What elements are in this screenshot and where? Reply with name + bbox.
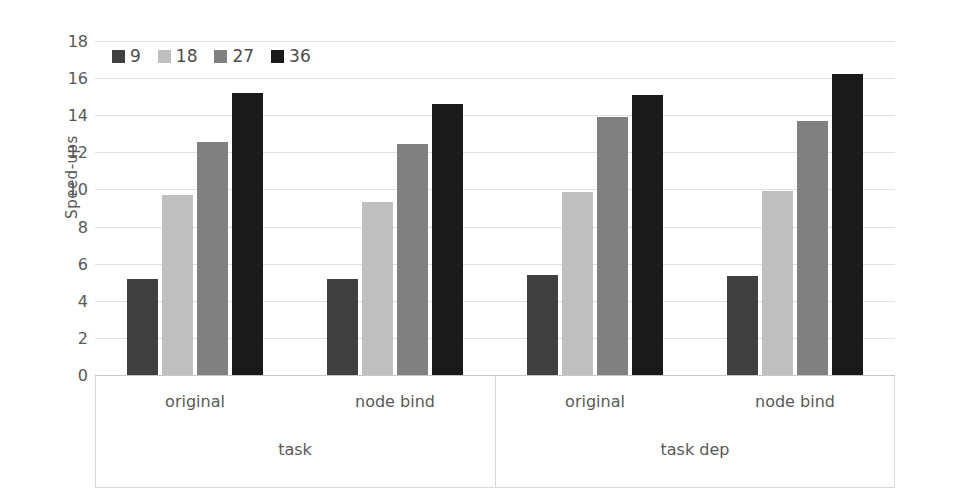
- bar-chart: Speed-ups 181614121086420 9182736 origin…: [0, 0, 953, 495]
- y-tick-label: 8: [40, 217, 88, 236]
- legend-item[interactable]: 27: [214, 48, 254, 65]
- bar: [562, 192, 593, 375]
- y-tick-label: 10: [40, 180, 88, 199]
- y-tick-label: 12: [40, 143, 88, 162]
- category-label-tier2: task dep: [495, 440, 895, 459]
- bar: [797, 121, 828, 375]
- y-tick-label: 4: [40, 291, 88, 310]
- bar: [232, 93, 263, 375]
- bar: [597, 117, 628, 375]
- chart-legend: 9182736: [112, 48, 328, 65]
- bar: [727, 276, 758, 375]
- category-label-tier2: task: [95, 440, 495, 459]
- category-axis: originalnode bindoriginalnode bindtaskta…: [95, 376, 895, 488]
- category-label-tier1: original: [95, 392, 295, 411]
- bar: [397, 144, 428, 375]
- bar: [127, 279, 158, 375]
- legend-swatch-icon: [112, 50, 125, 63]
- category-label-tier1: node bind: [295, 392, 495, 411]
- legend-swatch-icon: [271, 50, 284, 63]
- y-tick-label: 14: [40, 106, 88, 125]
- y-tick-label: 18: [40, 32, 88, 51]
- y-tick-label: 16: [40, 69, 88, 88]
- y-tick-label: 2: [40, 328, 88, 347]
- bar: [197, 142, 228, 375]
- legend-label: 9: [130, 48, 141, 65]
- category-label-tier1: node bind: [695, 392, 895, 411]
- category-label-tier1: original: [495, 392, 695, 411]
- legend-item[interactable]: 18: [158, 48, 198, 65]
- bar: [432, 104, 463, 375]
- y-tick-label: 0: [40, 366, 88, 385]
- legend-label: 36: [289, 48, 311, 65]
- bar: [162, 195, 193, 375]
- bar: [527, 275, 558, 375]
- legend-label: 18: [176, 48, 198, 65]
- y-tick-label: 6: [40, 254, 88, 273]
- category-divider: [495, 376, 496, 488]
- legend-label: 27: [232, 48, 254, 65]
- plot-area: [95, 41, 895, 375]
- y-axis-tick-labels: 181614121086420: [40, 0, 88, 495]
- legend-swatch-icon: [158, 50, 171, 63]
- legend-swatch-icon: [214, 50, 227, 63]
- bar: [327, 279, 358, 375]
- legend-item[interactable]: 9: [112, 48, 141, 65]
- bar: [632, 95, 663, 375]
- legend-item[interactable]: 36: [271, 48, 311, 65]
- bar: [832, 74, 863, 375]
- bars-layer: [95, 41, 895, 375]
- bar: [762, 191, 793, 375]
- bar: [362, 202, 393, 375]
